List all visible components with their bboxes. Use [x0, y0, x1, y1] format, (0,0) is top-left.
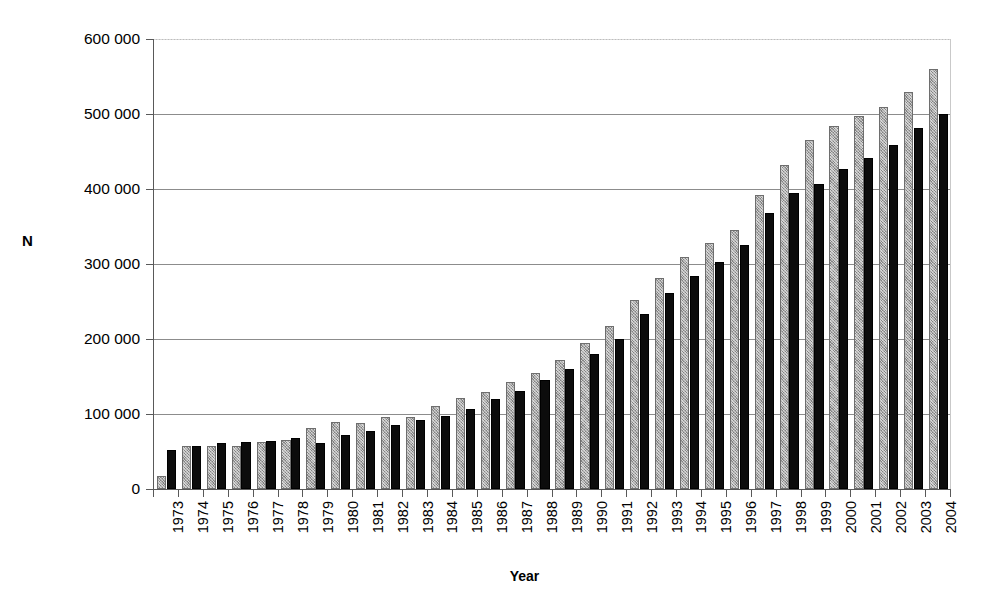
bar-series-black-1997 [765, 213, 774, 489]
x-axis-tick [278, 490, 279, 497]
bar-series-gray-1988 [531, 373, 540, 489]
x-axis-tick-label: 1996 [744, 501, 759, 533]
x-axis-tick [676, 490, 677, 497]
bar-series-black-1995 [715, 262, 724, 489]
y-axis-title: N [22, 232, 33, 249]
bar-series-gray-1974 [182, 446, 191, 489]
bar-series-gray-1987 [506, 382, 515, 489]
x-axis-tick-label: 1978 [296, 501, 311, 533]
bar-series-black-2004 [939, 114, 948, 489]
x-axis-tick-label: 1977 [271, 501, 286, 533]
x-axis-tick [178, 490, 179, 497]
bar-series-black-1987 [515, 391, 524, 489]
bar-series-black-1988 [540, 380, 549, 489]
x-axis-tick [601, 490, 602, 497]
x-axis-tick [776, 490, 777, 497]
x-axis-tick-label: 1991 [620, 501, 635, 533]
x-axis-tick-label: 1983 [421, 501, 436, 533]
x-axis-tick-label: 1974 [196, 501, 211, 533]
x-axis-tick [726, 490, 727, 497]
x-axis-tick-label: 1988 [545, 501, 560, 533]
bar-series-gray-1986 [481, 392, 490, 490]
bar-series-black-1979 [316, 443, 325, 490]
bar-series-gray-1997 [755, 195, 764, 489]
bar-series-gray-1980 [331, 422, 340, 489]
x-axis-tick-label: 1998 [794, 501, 809, 533]
bar-series-gray-1992 [630, 300, 639, 489]
bar-series-black-1976 [241, 442, 250, 489]
bar-series-black-1990 [590, 354, 599, 489]
x-axis-tick [552, 490, 553, 497]
x-axis-title: Year [0, 568, 981, 584]
x-axis-tick-label: 1997 [769, 501, 784, 533]
bar-series-gray-1993 [655, 278, 664, 489]
bar-series-gray-1981 [356, 423, 365, 489]
bar-series-black-2001 [864, 158, 873, 490]
x-axis-tick-label: 1992 [645, 501, 660, 533]
x-axis-tick-label: 1976 [246, 501, 261, 533]
y-axis-tick-label: 600 000 [84, 31, 140, 47]
bar-series-black-1985 [466, 409, 475, 489]
x-axis-tick-label: 2002 [894, 501, 909, 533]
bar-series-gray-1979 [306, 428, 315, 489]
y-axis-tick-label: 0 [131, 481, 140, 497]
x-axis-tick [452, 490, 453, 497]
x-axis-tick-label: 2003 [919, 501, 934, 533]
x-axis-tick-label: 1987 [520, 501, 535, 533]
bar-series-black-1974 [192, 446, 201, 490]
bar-series-black-1981 [366, 431, 375, 489]
x-axis-tick [850, 490, 851, 497]
x-axis-tick [626, 490, 627, 497]
x-axis-tick-label: 1985 [470, 501, 485, 533]
bar-series-black-1983 [416, 420, 425, 489]
x-axis-tick [502, 490, 503, 497]
x-axis-tick [950, 490, 951, 497]
bar-series-gray-1975 [207, 446, 216, 490]
x-axis-tick [576, 490, 577, 497]
x-axis-tick [253, 490, 254, 497]
bar-series-gray-1984 [431, 406, 440, 489]
bar-series-black-2000 [839, 169, 848, 489]
x-axis-tick-label: 1994 [694, 501, 709, 533]
bar-series-gray-1991 [605, 326, 614, 489]
bar-series-gray-1996 [730, 230, 739, 489]
bar-series-gray-1989 [555, 360, 564, 489]
x-axis-tick [925, 490, 926, 497]
x-axis-tick [153, 490, 154, 497]
bar-series-black-1996 [740, 245, 749, 489]
x-axis-tick-label: 1973 [171, 501, 186, 533]
x-axis-tick [701, 490, 702, 497]
bar-series-black-1984 [441, 416, 450, 489]
bar-series-black-1992 [640, 314, 649, 490]
bar-series-black-1978 [291, 438, 300, 489]
bar-series-black-2002 [889, 145, 898, 489]
bar-chart: N 0100 000200 000300 000400 000500 00060… [0, 0, 981, 608]
bar-series-gray-1978 [281, 440, 290, 490]
x-axis-tick [477, 490, 478, 497]
x-axis-tick-label: 1981 [371, 501, 386, 533]
x-axis-tick-label: 1979 [321, 501, 336, 533]
bar-series-black-1986 [491, 399, 500, 489]
bar-series-gray-2001 [854, 116, 863, 490]
bar-series-black-1982 [391, 425, 400, 490]
bar-series-black-2003 [914, 128, 923, 490]
x-axis-tick-label: 1995 [719, 501, 734, 533]
bar-series-gray-1982 [381, 417, 390, 489]
y-axis-tick-label: 400 000 [84, 181, 140, 197]
bar-series-gray-1977 [257, 442, 266, 489]
bar-series-gray-1990 [580, 343, 589, 489]
bar-series-gray-1983 [406, 417, 415, 489]
x-axis-tick-label: 1975 [221, 501, 236, 533]
x-axis-tick-label: 2001 [869, 501, 884, 533]
bar-series-black-1998 [789, 193, 798, 489]
x-axis-tick-label: 2004 [944, 501, 959, 533]
bar-series-black-1973 [167, 450, 176, 489]
x-axis-tick [825, 490, 826, 497]
x-axis-tick [377, 490, 378, 497]
y-axis-tick-label: 200 000 [84, 331, 140, 347]
x-axis-tick [527, 490, 528, 497]
plot-area [153, 39, 951, 490]
x-axis-tick [427, 490, 428, 497]
y-axis-tick-label: 100 000 [84, 406, 140, 422]
x-axis-tick-label: 2000 [844, 501, 859, 533]
